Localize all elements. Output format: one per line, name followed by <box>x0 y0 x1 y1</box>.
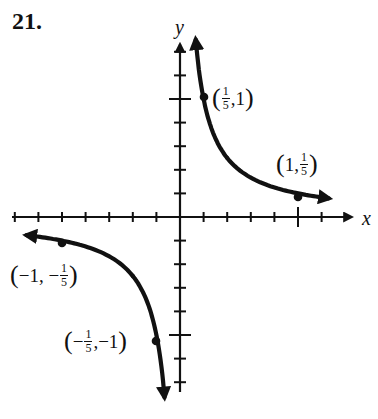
x-axis-label: x <box>362 207 371 230</box>
graph-canvas <box>0 0 378 419</box>
fraction: 15 <box>222 85 230 111</box>
point-neg-one-fifth-neg-one <box>152 337 161 346</box>
fraction: 15 <box>84 328 92 354</box>
point-neg-one-neg-one-fifth <box>58 239 67 248</box>
fraction: 15 <box>60 262 68 288</box>
fraction: 15 <box>300 151 308 177</box>
label-point-one-one-fifth: (1,15) <box>276 151 318 177</box>
label-point-one-fifth-one: (15,1) <box>212 85 254 111</box>
label-point-neg-one-fifth-neg-one: (−15,−1) <box>64 328 127 354</box>
label-point-neg-one-neg-one-fifth: (−1, −15) <box>10 262 78 288</box>
point-one-one-fifth <box>294 193 303 202</box>
x-axis <box>12 207 352 227</box>
y-axis-label: y <box>175 16 184 39</box>
point-one-fifth-one <box>200 93 209 102</box>
curve-left-branch-lower <box>133 276 165 397</box>
